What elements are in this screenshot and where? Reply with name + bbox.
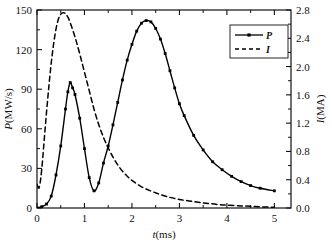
series-marker-P (126, 59, 129, 62)
series-marker-P (112, 123, 115, 126)
series-marker-P (74, 93, 77, 96)
series-marker-P (221, 168, 224, 171)
line-chart: 012345 0306090120150 0.00.40.81.21.62.02… (0, 0, 332, 240)
series-marker-P (240, 180, 243, 183)
y2-tick-label: 0.4 (296, 174, 310, 186)
series-marker-P (211, 160, 214, 163)
series-marker-P (59, 145, 62, 148)
series-marker-P (45, 203, 48, 206)
x-axis-label: t(ms) (152, 228, 176, 240)
legend-label-P: P (266, 30, 273, 41)
y-tick-label: 150 (16, 4, 33, 16)
series-marker-P (50, 195, 53, 198)
secondary-y-axis-label: I(MA) (314, 94, 327, 124)
series-marker-P (192, 134, 195, 137)
series-marker-P (164, 52, 167, 55)
y2-tick-label: 1.6 (296, 89, 310, 101)
x-tick-label: 2 (129, 212, 135, 224)
y2-tick-label: 0.8 (296, 145, 310, 157)
series-marker-P (173, 86, 176, 89)
y-tick-label: 0 (27, 202, 33, 214)
y-tick-label: 60 (21, 123, 33, 135)
series-marker-P (88, 176, 91, 179)
x-tick-label: 3 (177, 212, 183, 224)
secondary-y-axis-label-unit: (MA) (314, 94, 327, 119)
y2-tick-label: 1.2 (296, 117, 310, 129)
series-marker-P (259, 187, 262, 190)
legend: PI (230, 25, 288, 58)
series-marker-P (69, 81, 72, 84)
series-marker-P (140, 22, 143, 25)
y-axis-label-unit: (MW/s) (2, 88, 15, 123)
series-marker-P (150, 20, 153, 23)
x-tick-label: 1 (82, 212, 88, 224)
series-marker-P (131, 43, 134, 46)
series-marker-P (102, 162, 105, 165)
y2-tick-label: 2.8 (296, 4, 310, 16)
series-marker-P (183, 114, 186, 117)
series-marker-P (116, 101, 119, 104)
series-marker-P (145, 19, 148, 22)
y2-tick-label: 2.0 (296, 61, 310, 73)
series-marker-P (71, 86, 74, 89)
series-marker-P (249, 184, 252, 187)
x-axis-label-unit: (ms) (155, 228, 176, 240)
series-marker-P (230, 175, 233, 178)
series-marker-P (97, 182, 100, 185)
y2-tick-label: 2.4 (296, 32, 310, 44)
y2-tick-label: 0.0 (296, 202, 310, 214)
series-marker-P (202, 149, 205, 152)
y-axis-label: P(MW/s) (2, 88, 15, 131)
series-marker-P (159, 38, 162, 41)
series-marker-P (40, 205, 43, 208)
series-marker-P (121, 79, 124, 82)
series-marker-P (154, 27, 157, 30)
figure-container: 012345 0306090120150 0.00.40.81.21.62.02… (0, 0, 332, 240)
x-tick-label: 5 (272, 212, 278, 224)
series-marker-P (66, 90, 69, 93)
legend-marker-P (247, 33, 250, 36)
series-marker-P (78, 117, 81, 120)
y-tick-label: 30 (21, 162, 33, 174)
series-marker-P (178, 102, 181, 105)
series-marker-P (169, 69, 172, 72)
series-marker-P (273, 189, 276, 192)
x-tick-label: 4 (224, 212, 230, 224)
legend-box (230, 25, 288, 58)
series-marker-P (64, 108, 67, 111)
x-tick-label: 0 (34, 212, 40, 224)
series-marker-P (135, 30, 138, 33)
series-marker-P (55, 174, 58, 177)
y-tick-label: 90 (21, 83, 33, 95)
series-marker-P (93, 189, 96, 192)
y-tick-label: 120 (16, 44, 33, 56)
series-marker-P (83, 147, 86, 150)
